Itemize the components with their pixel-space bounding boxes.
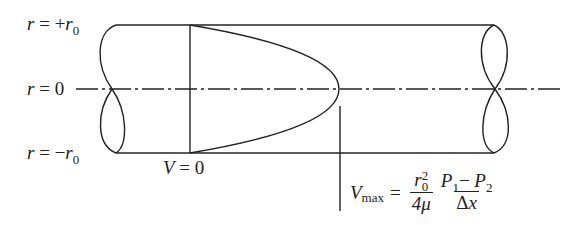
label-sign: + xyxy=(55,13,66,34)
fraction-numerator: r20 xyxy=(412,170,430,192)
vmax-var: V xyxy=(350,183,362,202)
wall-velocity-label: V = 0 xyxy=(163,158,204,177)
p2-symbol: P xyxy=(474,170,486,191)
r-symbol: r xyxy=(414,169,421,190)
label-value: 0 xyxy=(195,157,205,178)
x-symbol: x xyxy=(469,192,477,213)
label-eq: = xyxy=(179,157,190,178)
vmax-sub: max xyxy=(362,191,384,204)
p1-symbol: P xyxy=(441,170,453,191)
minus: − xyxy=(459,170,470,191)
label-var: V xyxy=(163,157,175,178)
top-wall-label: r = +r0 xyxy=(27,14,79,33)
label-sym: r xyxy=(65,13,72,34)
label-eq: = xyxy=(39,13,50,34)
fraction-numerator: P1− P2 xyxy=(439,171,495,192)
label-sub: 0 xyxy=(73,152,80,167)
fraction-r0-squared-over-4mu: r20 4μ xyxy=(410,170,433,215)
label-sym: r xyxy=(65,142,72,163)
delta: Δ xyxy=(456,192,468,213)
subscript: 0 xyxy=(422,182,429,192)
label-value: 0 xyxy=(55,78,65,99)
label-eq: = xyxy=(39,142,50,163)
label-var: r xyxy=(27,142,34,163)
label-var: r xyxy=(27,13,34,34)
fraction-denominator: 4μ xyxy=(410,192,433,215)
p2-sub: 2 xyxy=(486,180,493,195)
fraction-pressure-drop: P1− P2 Δx xyxy=(439,171,495,215)
left-cut-curve-back xyxy=(100,89,116,153)
label-var: r xyxy=(27,78,34,99)
bottom-wall-label: r = −r0 xyxy=(27,143,79,162)
label-eq: = xyxy=(39,78,50,99)
pipe-flow-diagram: r = +r0 r = 0 r = −r0 V = 0 Vmax = r20 4… xyxy=(0,0,578,225)
label-sign: − xyxy=(55,142,66,163)
centerline-label: r = 0 xyxy=(27,79,64,98)
vmax-eq: = xyxy=(390,183,401,202)
p1-sub: 1 xyxy=(452,180,459,195)
label-sub: 0 xyxy=(73,23,80,38)
vmax-formula: Vmax = r20 4μ P1− P2 Δx xyxy=(350,170,497,215)
